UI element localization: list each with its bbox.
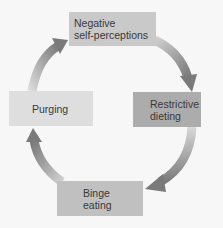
node-purging: Purging — [9, 91, 93, 126]
node-label-line: dieting — [150, 110, 201, 122]
node-label-line: Restrictive — [150, 98, 201, 110]
node-negative-self-perceptions: Negative self-perceptions — [69, 12, 156, 46]
node-label-line: self-perceptions — [74, 29, 156, 41]
node-binge-eating: Binge eating — [57, 181, 143, 216]
node-label-line: eating — [83, 199, 143, 211]
node-restrictive-dieting: Restrictive dieting — [133, 92, 201, 127]
arrowhead-icon — [180, 74, 197, 92]
node-label-line: Purging — [32, 103, 93, 115]
arrowhead-icon — [145, 174, 166, 192]
node-label-line: Negative — [74, 17, 156, 29]
arrowhead-icon — [26, 128, 42, 142]
arrow-restrictive-to-binge — [160, 127, 192, 182]
arrow-purging-to-negative — [32, 46, 58, 91]
node-label-line: Binge — [83, 187, 143, 199]
arrow-binge-to-purging — [34, 140, 62, 182]
